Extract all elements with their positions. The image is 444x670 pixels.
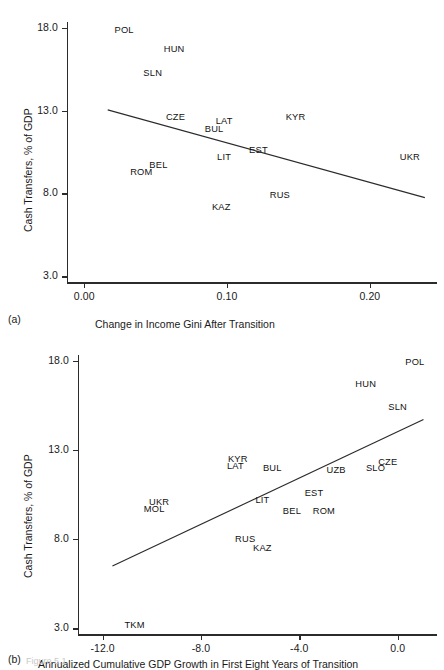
data-point-label-rus: RUS xyxy=(270,190,290,200)
data-point-label-uzb: UZB xyxy=(327,465,346,475)
panel-a-x-tick-label: 0.20 xyxy=(340,290,400,302)
panel-b-x-tick-label: -4.0 xyxy=(269,642,329,654)
panel-b-x-tick-label: -8.0 xyxy=(171,642,231,654)
data-point-label-pol: POL xyxy=(405,357,424,367)
data-point-label-est: EST xyxy=(249,145,268,155)
panel-b-scatter: 3.08.013.018.0-12.0-8.0-4.00.0POLHUNSLNC… xyxy=(0,328,444,665)
data-point-label-kyr: KYR xyxy=(286,112,306,122)
data-point-label-lit: LIT xyxy=(217,152,231,162)
figure-caption: Figure 5.1 xyxy=(26,656,67,666)
panel-a-y-tick-label: 18.0 xyxy=(18,21,58,33)
data-point-label-slo: SLO xyxy=(366,463,385,473)
data-point-label-kaz: KAZ xyxy=(212,202,231,212)
data-point-label-lit: LIT xyxy=(255,495,269,505)
data-point-label-lat: LAT xyxy=(227,461,244,471)
data-point-label-cze: CZE xyxy=(166,112,185,122)
data-point-label-bul: BUL xyxy=(263,463,282,473)
panel-b-x-tick-label: -12.0 xyxy=(73,642,133,654)
panel-a-y-axis-title: Cash Transfers, % of GDP xyxy=(22,108,34,232)
data-point-label-bel: BEL xyxy=(283,506,301,516)
data-point-label-sln: SLN xyxy=(143,68,162,78)
data-point-label-kaz: KAZ xyxy=(253,543,272,553)
panel-a-tag: (a) xyxy=(8,313,21,325)
data-point-label-rom: ROM xyxy=(313,506,335,516)
data-point-label-bul: BUL xyxy=(205,124,224,134)
data-point-label-pol: POL xyxy=(115,25,134,35)
data-point-label-est: EST xyxy=(305,488,324,498)
panel-b-y-tick-label: 8.0 xyxy=(29,532,69,544)
data-point-label-ukr: UKR xyxy=(400,152,420,162)
panel-b-plot-area: 3.08.013.018.0-12.0-8.0-4.00.0POLHUNSLNC… xyxy=(78,350,437,640)
data-point-label-rom: ROM xyxy=(130,167,152,177)
panel-b-tag: (b) xyxy=(8,653,21,665)
data-point-label-sln: SLN xyxy=(388,402,407,412)
panel-a-x-tick-label: 0.00 xyxy=(54,290,114,302)
data-point-label-hun: HUN xyxy=(355,379,376,389)
panel-a-scatter: 3.08.013.018.00.000.100.20POLHUNSLNCZELA… xyxy=(0,0,444,330)
panel-a-y-tick-label: 3.0 xyxy=(18,269,58,281)
panel-b-y-tick-label: 3.0 xyxy=(29,621,69,633)
panel-b-x-tick-label: 0.0 xyxy=(368,642,428,654)
panel-b-y-tick-label: 18.0 xyxy=(29,354,69,366)
panel-b-x-axis-title: Annualized Cumulative GDP Growth in Firs… xyxy=(38,658,358,670)
panel-a-plot-area: 3.08.013.018.00.000.100.20POLHUNSLNCZELA… xyxy=(67,18,437,287)
panel-a-x-tick-label: 0.10 xyxy=(197,290,257,302)
panel-b-y-tick-label: 13.0 xyxy=(29,443,69,455)
data-point-label-hun: HUN xyxy=(164,44,185,54)
panel-b-y-axis-title: Cash Transfers, % of GDP xyxy=(22,454,34,578)
data-point-label-mol: MOL xyxy=(144,504,165,514)
data-point-label-tkm: TKM xyxy=(124,620,144,630)
